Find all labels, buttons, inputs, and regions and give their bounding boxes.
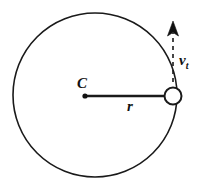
- diagram-canvas: [0, 0, 202, 183]
- velocity-subscript: t: [186, 60, 189, 71]
- radius-label: r: [127, 99, 133, 114]
- velocity-label: vt: [179, 53, 188, 71]
- center-point-dot: [82, 93, 87, 98]
- velocity-symbol: v: [179, 52, 186, 68]
- particle-circle: [165, 88, 182, 105]
- circular-motion-figure: C r vt: [0, 0, 202, 183]
- center-label: C: [77, 76, 87, 91]
